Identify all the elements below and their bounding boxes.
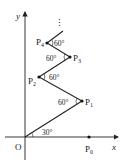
angle-arc-p1: [76, 98, 77, 104]
angle-arc-p3: [64, 54, 65, 60]
x-axis-label: x: [111, 142, 116, 152]
point-p2: [37, 75, 40, 78]
point-p4: [45, 41, 48, 44]
angle-arc-p4: [52, 40, 53, 46]
point-p1: [80, 99, 83, 102]
label-p3: P3: [73, 53, 81, 64]
label-p0: P0: [85, 144, 93, 155]
angle-label-p2: 60°: [49, 73, 60, 82]
point-p0: [87, 135, 90, 138]
angle-label-o: 30°: [42, 128, 53, 137]
angle-label-p3: 60°: [46, 54, 57, 63]
label-p2: P2: [28, 76, 36, 87]
origin-label: O: [15, 142, 22, 152]
angle-arc-o: [32, 133, 33, 137]
y-axis-label: y: [15, 11, 20, 21]
label-p4: P4: [36, 37, 44, 48]
zigzag-diagram: y x O ⋮ P0 P1 P2 P3 P4 30° 60° 60° 60° 6…: [0, 0, 126, 162]
angle-label-p1: 60°: [58, 98, 69, 107]
continuation-dots: ⋮: [55, 18, 64, 28]
label-p1: P1: [85, 97, 93, 108]
point-p3: [68, 55, 71, 58]
angle-arc-p2: [44, 74, 45, 80]
angle-label-p4: 60°: [54, 39, 65, 48]
